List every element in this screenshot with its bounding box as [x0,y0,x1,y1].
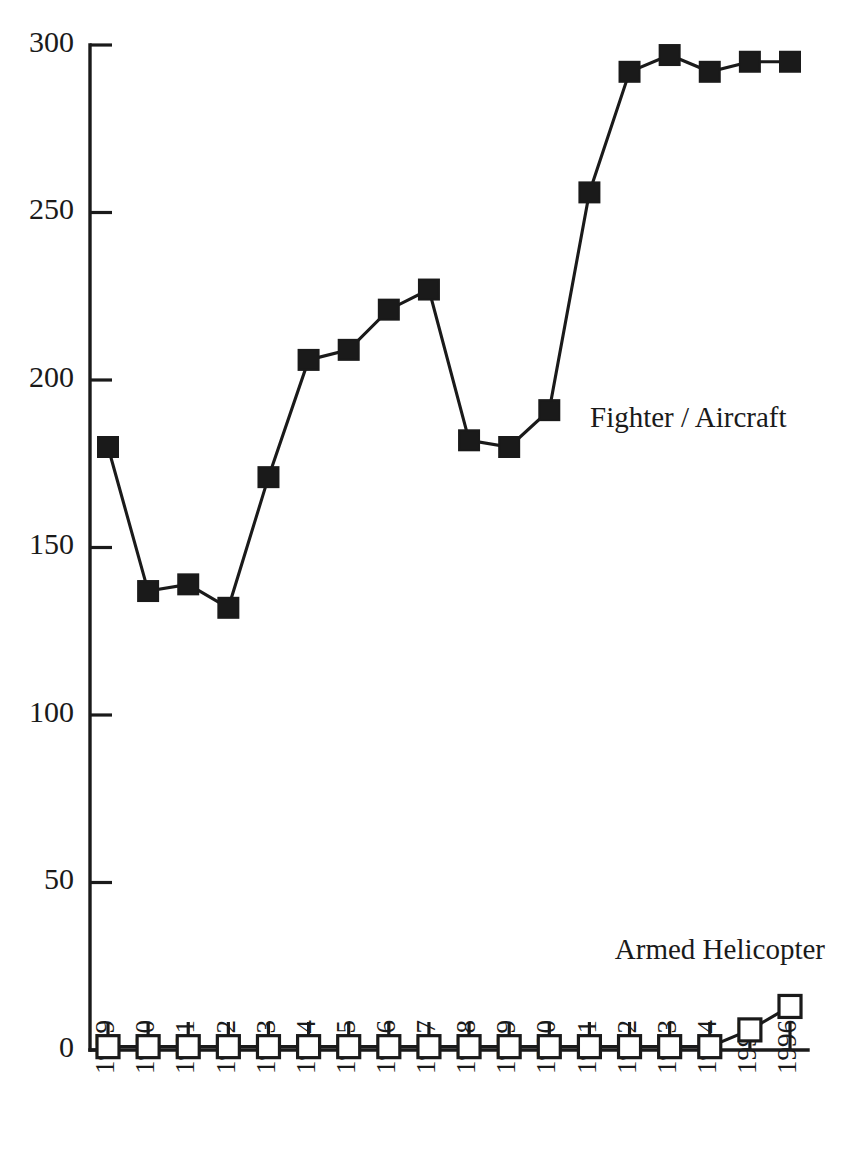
data-point-marker [299,350,319,370]
data-point-marker [218,598,238,618]
data-point-marker [138,581,158,601]
data-point-marker [97,1036,119,1058]
data-point-marker [339,340,359,360]
y-tick-label-50: 50 [44,862,74,895]
data-point-marker [699,1036,721,1058]
y-tick-label-300: 300 [29,25,74,58]
data-point-marker [538,1036,560,1058]
data-point-marker [459,430,479,450]
data-point-marker [217,1036,239,1058]
data-point-marker [499,437,519,457]
data-point-marker [98,437,118,457]
y-tick-label-250: 250 [29,192,74,225]
data-point-marker [660,45,680,65]
y-tick-label-200: 200 [29,360,74,393]
x-tick-label-1996: 1996 [772,1020,802,1074]
data-point-marker [458,1036,480,1058]
data-point-marker [178,574,198,594]
series-annotation-1: Armed Helicopter [615,933,826,965]
data-point-marker [418,1036,440,1058]
data-point-marker [137,1036,159,1058]
y-tick-label-100: 100 [29,695,74,728]
y-tick-label-0: 0 [59,1030,74,1063]
data-point-marker [258,467,278,487]
data-point-marker [378,1036,400,1058]
data-point-marker [620,62,640,82]
data-point-marker [498,1036,520,1058]
data-point-marker [338,1036,360,1058]
data-point-marker [780,52,800,72]
data-point-marker [579,182,599,202]
data-point-marker [539,400,559,420]
y-tick-label-150: 150 [29,527,74,560]
data-point-marker [739,1019,761,1041]
data-point-marker [177,1036,199,1058]
chart-figure: 050100150200250300 197919801981198219831… [0,0,855,1158]
line-chart-canvas: 050100150200250300 197919801981198219831… [0,0,855,1158]
data-point-marker [700,62,720,82]
series-annotation-0: Fighter / Aircraft [590,401,787,433]
chart-background [0,0,855,1158]
data-point-marker [578,1036,600,1058]
data-point-marker [379,300,399,320]
data-point-marker [659,1036,681,1058]
data-point-marker [740,52,760,72]
data-point-marker [298,1036,320,1058]
data-point-marker [619,1036,641,1058]
data-point-marker [779,995,801,1017]
data-point-marker [419,280,439,300]
data-point-marker [257,1036,279,1058]
